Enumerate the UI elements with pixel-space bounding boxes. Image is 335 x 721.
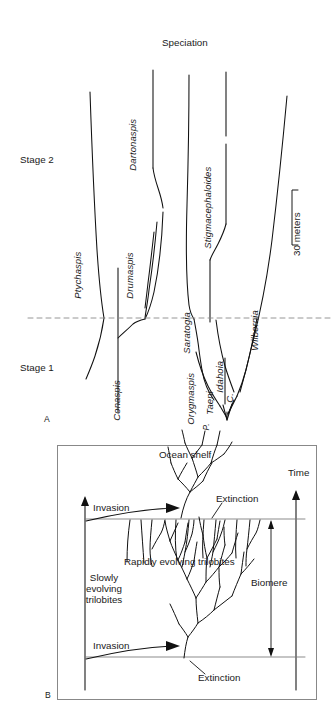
- panel-b-letter: B: [45, 691, 51, 701]
- extinction-pointer-upper: [212, 503, 222, 518]
- biomere-arrow-up: [268, 520, 274, 529]
- extinction-label-upper: Extinction: [216, 494, 258, 505]
- figure-container: Speciation Stage 2 Stage 1 30 meters Pty…: [0, 0, 335, 721]
- invasion-label-upper: Invasion: [93, 503, 130, 514]
- lower-clade-tree: [165, 517, 254, 658]
- invasion-arrow-upper-head: [166, 503, 180, 513]
- invasion-arrow-lower-head: [166, 641, 180, 651]
- biomere-arrow-down: [268, 648, 274, 657]
- slowly-line-3: trilobites: [66, 595, 142, 606]
- slow-lineage-arrowhead: [81, 496, 89, 506]
- biomere-label: Biomere: [251, 578, 287, 589]
- invasion-label-lower: Invasion: [93, 641, 130, 652]
- extinction-label-lower: Extinction: [198, 673, 240, 684]
- slowly-evolving-trilobites-label: Slowly evolving trilobites: [66, 573, 142, 606]
- rapidly-evolving-trilobites-label: Rapidly evolving trilobites: [124, 557, 235, 568]
- time-axis-label: Time: [288, 468, 309, 479]
- ocean-shelf-label: Ocean shelf: [159, 450, 211, 461]
- panel-b-graphic: [0, 0, 335, 721]
- time-axis-arrowhead: [292, 490, 300, 500]
